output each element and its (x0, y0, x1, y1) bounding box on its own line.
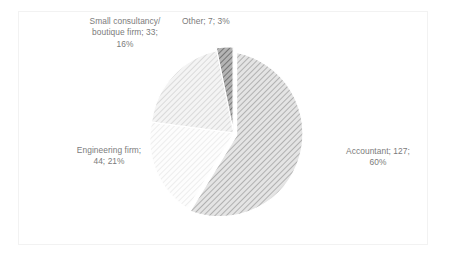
pie-label-accountant: Accountant; 127; 60% (316, 146, 440, 169)
pie-label-other: Other; 7; 3% (160, 16, 256, 27)
pie-slices (150, 47, 303, 217)
pie-label-engineering-firm: Engineering firm; 44; 21% (44, 145, 174, 168)
